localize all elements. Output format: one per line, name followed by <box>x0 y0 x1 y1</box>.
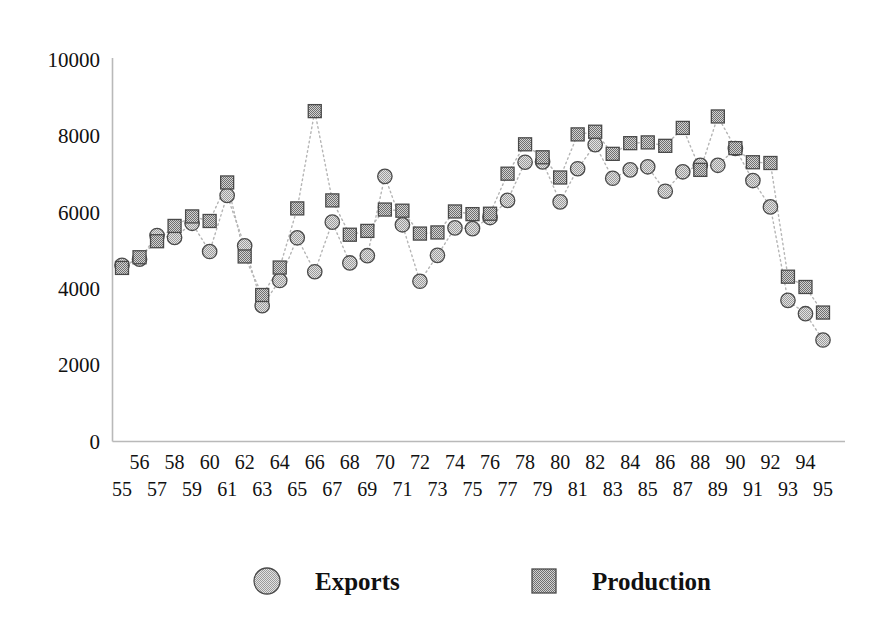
data-point-exports-68 <box>343 256 357 270</box>
x-tick-label-77: 77 <box>498 478 518 500</box>
x-tick-label-72: 72 <box>410 451 430 473</box>
data-point-production-57 <box>151 235 164 248</box>
y-tick-label: 0 <box>90 430 101 454</box>
data-point-exports-91 <box>746 173 760 187</box>
data-point-production-83 <box>606 147 619 160</box>
data-point-production-60 <box>203 214 216 227</box>
data-point-exports-92 <box>763 200 777 214</box>
x-tick-label-92: 92 <box>760 451 780 473</box>
x-tick-label-93: 93 <box>778 478 798 500</box>
data-point-production-63 <box>256 289 269 302</box>
x-tick-label-95: 95 <box>813 478 833 500</box>
data-point-exports-73 <box>430 248 444 262</box>
legend-label-exports: Exports <box>315 568 400 595</box>
legend-label-production: Production <box>592 568 711 595</box>
x-tick-label-83: 83 <box>603 478 623 500</box>
x-tick-label-85: 85 <box>638 478 658 500</box>
x-tick-label-64: 64 <box>270 451 290 473</box>
data-point-exports-94 <box>798 307 812 321</box>
data-point-exports-64 <box>273 273 287 287</box>
x-tick-label-74: 74 <box>445 451 465 473</box>
x-tick-label-55: 55 <box>112 478 132 500</box>
x-tick-label-56: 56 <box>130 451 150 473</box>
data-point-production-74 <box>448 205 461 218</box>
data-point-exports-84 <box>623 163 637 177</box>
data-point-exports-77 <box>500 193 514 207</box>
data-point-exports-75 <box>465 221 479 235</box>
data-point-production-64 <box>273 261 286 274</box>
data-point-production-92 <box>764 157 777 170</box>
data-point-production-71 <box>396 204 409 217</box>
axes <box>113 58 846 442</box>
x-tick-label-81: 81 <box>568 478 588 500</box>
data-point-production-70 <box>378 203 391 216</box>
chart-legend: ExportsProduction <box>254 568 711 595</box>
x-tick-label-94: 94 <box>795 451 815 473</box>
data-point-exports-66 <box>308 265 322 279</box>
data-point-exports-67 <box>325 215 339 229</box>
x-tick-label-70: 70 <box>375 451 395 473</box>
x-tick-label-73: 73 <box>427 478 447 500</box>
y-tick-label: 8000 <box>58 124 100 148</box>
data-point-exports-82 <box>588 137 602 151</box>
x-tick-label-91: 91 <box>743 478 763 500</box>
data-point-production-59 <box>186 210 199 223</box>
data-point-production-79 <box>536 151 549 164</box>
data-point-exports-74 <box>448 221 462 235</box>
x-tick-label-69: 69 <box>357 478 377 500</box>
data-point-production-73 <box>431 226 444 239</box>
y-tick-label: 6000 <box>58 201 100 225</box>
data-point-exports-70 <box>378 169 392 183</box>
x-tick-label-63: 63 <box>252 478 272 500</box>
data-point-exports-89 <box>711 158 725 172</box>
x-tick-label-88: 88 <box>690 451 710 473</box>
data-point-exports-86 <box>658 184 672 198</box>
data-point-production-75 <box>466 208 479 221</box>
legend-marker-exports <box>254 568 280 594</box>
data-point-exports-78 <box>518 155 532 169</box>
x-tick-label-57: 57 <box>147 478 167 500</box>
x-tick-label-65: 65 <box>287 478 307 500</box>
x-tick-label-78: 78 <box>515 451 535 473</box>
series-markers <box>115 105 830 348</box>
scatter-plot: 0200040006000800010000 56586062646668707… <box>0 0 871 631</box>
data-point-production-81 <box>571 128 584 141</box>
legend-marker-production <box>532 569 556 593</box>
data-point-production-84 <box>624 137 637 150</box>
data-point-production-91 <box>746 156 759 169</box>
data-point-production-93 <box>781 270 794 283</box>
data-point-production-87 <box>676 121 689 134</box>
x-tick-label-59: 59 <box>182 478 202 500</box>
data-point-production-88 <box>694 163 707 176</box>
data-point-production-77 <box>501 167 514 180</box>
x-tick-label-75: 75 <box>463 478 483 500</box>
data-point-production-94 <box>799 280 812 293</box>
data-point-exports-61 <box>220 188 234 202</box>
x-tick-label-66: 66 <box>305 451 325 473</box>
data-point-production-95 <box>817 306 830 319</box>
chart-figure: 0200040006000800010000 56586062646668707… <box>0 0 871 631</box>
x-tick-label-71: 71 <box>392 478 412 500</box>
x-tick-label-62: 62 <box>235 451 255 473</box>
data-point-production-61 <box>221 176 234 189</box>
x-axis-tick-labels-odd: 5557596163656769717375777981838587899193… <box>112 478 833 500</box>
data-point-production-58 <box>168 219 181 232</box>
data-point-production-62 <box>238 250 251 263</box>
x-tick-label-89: 89 <box>708 478 728 500</box>
data-point-production-76 <box>484 207 497 220</box>
data-point-exports-81 <box>570 162 584 176</box>
data-point-exports-93 <box>781 293 795 307</box>
x-tick-label-90: 90 <box>725 451 745 473</box>
y-tick-label: 10000 <box>48 48 101 72</box>
data-point-exports-71 <box>395 218 409 232</box>
x-tick-label-82: 82 <box>585 451 605 473</box>
x-tick-label-61: 61 <box>217 478 237 500</box>
x-tick-label-58: 58 <box>165 451 185 473</box>
data-point-exports-95 <box>816 333 830 347</box>
data-point-production-89 <box>711 110 724 123</box>
data-point-production-68 <box>343 228 356 241</box>
data-point-exports-85 <box>641 160 655 174</box>
data-point-exports-87 <box>676 165 690 179</box>
data-point-production-56 <box>133 251 146 264</box>
data-point-exports-60 <box>202 244 216 258</box>
